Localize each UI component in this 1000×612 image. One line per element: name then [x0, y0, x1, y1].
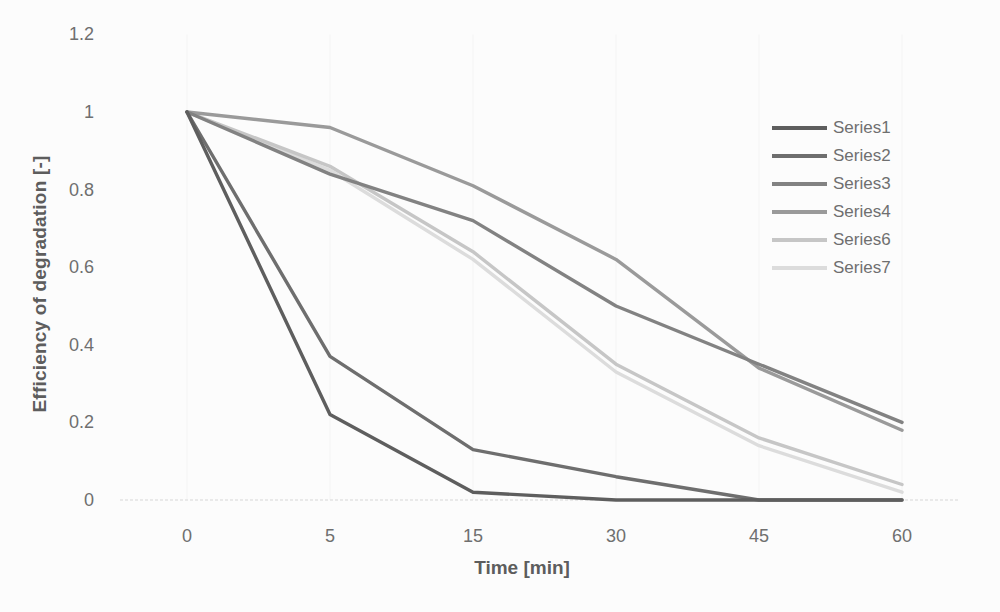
x-tick-label: 45	[749, 526, 769, 547]
legend-line-swatch	[772, 210, 827, 214]
legend-line-swatch	[772, 126, 827, 130]
y-tick-label: 0.2	[30, 412, 94, 433]
y-tick-label: 1.2	[30, 24, 94, 45]
y-tick-label: 0.8	[30, 180, 94, 201]
legend-label: Series7	[833, 258, 891, 278]
y-tick-label: 0	[30, 490, 94, 511]
x-tick-label: 0	[182, 526, 192, 547]
legend-label: Series3	[833, 174, 891, 194]
legend-item-series7: Series7	[772, 254, 891, 282]
legend-line-swatch	[772, 182, 827, 186]
y-tick-label: 1	[30, 102, 94, 123]
degradation-line-chart: Efficiency of degradation [-] Time [min]…	[0, 0, 1000, 612]
x-tick-label: 60	[892, 526, 912, 547]
legend-item-series1: Series1	[772, 114, 891, 142]
x-tick-label: 5	[325, 526, 335, 547]
y-tick-label: 0.6	[30, 257, 94, 278]
legend-label: Series4	[833, 202, 891, 222]
legend-line-swatch	[772, 238, 827, 242]
x-tick-label: 15	[463, 526, 483, 547]
legend-item-series2: Series2	[772, 142, 891, 170]
x-axis-title: Time [min]	[474, 557, 570, 579]
x-tick-label: 30	[606, 526, 626, 547]
legend-line-swatch	[772, 154, 827, 158]
legend-label: Series2	[833, 146, 891, 166]
legend-line-swatch	[772, 266, 827, 270]
legend-label: Series1	[833, 118, 891, 138]
legend-item-series4: Series4	[772, 198, 891, 226]
plot-area	[0, 0, 1000, 612]
chart-legend: Series1Series2Series3Series4Series6Serie…	[772, 114, 891, 282]
legend-label: Series6	[833, 230, 891, 250]
legend-item-series6: Series6	[772, 226, 891, 254]
legend-item-series3: Series3	[772, 170, 891, 198]
y-tick-label: 0.4	[30, 335, 94, 356]
